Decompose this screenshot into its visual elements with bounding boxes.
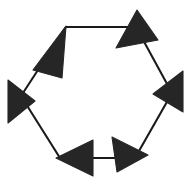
figure-root	[0, 0, 192, 183]
hexagon-cycle-diagram	[0, 0, 192, 183]
